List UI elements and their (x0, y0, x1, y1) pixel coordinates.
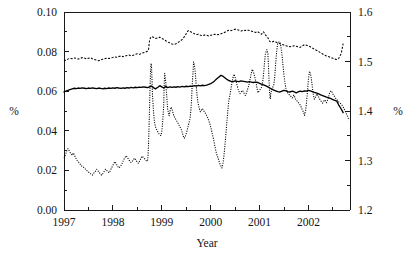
left-tick-label: 0.04 (37, 125, 57, 137)
bottom-tick-label: 1998 (101, 216, 124, 228)
left-tick-label: 0.06 (37, 85, 57, 97)
chart-figure: 0.000.020.040.060.080.10 1.21.31.41.51.6… (0, 0, 412, 263)
right-axis-ticks (345, 12, 350, 210)
left-tick-label: 0.00 (37, 204, 57, 216)
left-tick-label: 0.02 (37, 164, 57, 176)
bottom-axis-ticks (64, 205, 333, 210)
data-series-group (64, 29, 349, 175)
left-axis-tick-labels: 0.000.020.040.060.080.10 (37, 6, 57, 216)
y-axis-title-left: % (9, 105, 19, 117)
bottom-tick-label: 1997 (53, 216, 76, 228)
bottom-tick-label: 1999 (150, 216, 173, 228)
bottom-tick-label: 2002 (297, 216, 320, 228)
left-axis-ticks (64, 12, 69, 210)
bottom-axis-tick-labels: 199719981999200020012002 (53, 216, 321, 228)
left-tick-label: 0.08 (37, 46, 57, 58)
x-axis-title: Year (196, 237, 217, 249)
y-axis-title-right: % (393, 105, 403, 117)
right-tick-label: 1.3 (358, 155, 373, 167)
left-tick-label: 0.10 (37, 6, 57, 18)
chart-svg: 0.000.020.040.060.080.10 1.21.31.41.51.6… (0, 0, 412, 263)
right-tick-label: 1.4 (358, 105, 373, 117)
bottom-tick-label: 2000 (199, 216, 222, 228)
right-tick-label: 1.2 (358, 204, 373, 216)
upper-dashed-series (64, 29, 343, 61)
axes-group (64, 12, 350, 210)
bottom-tick-label: 2001 (248, 216, 271, 228)
right-tick-label: 1.5 (358, 56, 373, 68)
right-axis-tick-labels: 1.21.31.41.51.6 (358, 6, 373, 216)
lower-dotted-series (64, 42, 349, 175)
right-tick-label: 1.6 (358, 6, 373, 18)
